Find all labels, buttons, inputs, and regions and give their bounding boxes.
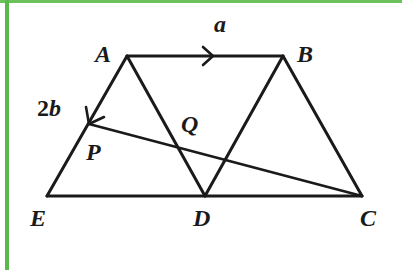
point-label-c: C bbox=[360, 206, 376, 230]
geometry-figure: A B E D C P Q a 2b bbox=[0, 0, 402, 270]
point-label-e: E bbox=[30, 206, 46, 230]
segment-bc bbox=[283, 56, 362, 196]
vector-label-a: a bbox=[214, 12, 226, 36]
segment-ae bbox=[47, 56, 127, 196]
segment-pc bbox=[89, 124, 362, 196]
point-label-q: Q bbox=[181, 112, 198, 136]
vector-label-2b: 2b bbox=[37, 96, 61, 120]
segment-bd bbox=[205, 56, 283, 196]
point-label-b: B bbox=[297, 42, 313, 66]
vector-label-2b-coefficient: 2 bbox=[37, 95, 49, 121]
point-label-a: A bbox=[95, 42, 111, 66]
point-label-p: P bbox=[86, 140, 101, 164]
vector-label-2b-vector: b bbox=[49, 95, 61, 121]
point-label-d: D bbox=[193, 206, 210, 230]
